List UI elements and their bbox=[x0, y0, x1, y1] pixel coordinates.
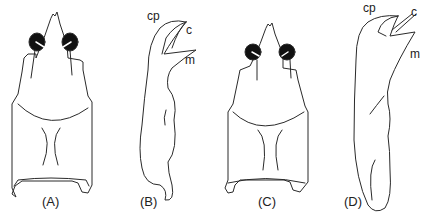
label-c-d: c bbox=[411, 6, 417, 18]
label-m-b: m bbox=[185, 54, 195, 66]
panel-label-a: (A) bbox=[42, 195, 59, 208]
label-c-b: c bbox=[186, 24, 192, 36]
label-cp-d: cp bbox=[363, 2, 376, 14]
appendage-b bbox=[140, 21, 196, 200]
panel-label-b: (B) bbox=[140, 195, 157, 208]
panel-label-c: (C) bbox=[258, 195, 276, 208]
panel-label-d: (D) bbox=[344, 195, 362, 208]
carapace-a bbox=[12, 12, 92, 197]
figure-drawing bbox=[0, 0, 427, 219]
carapace-c bbox=[225, 23, 308, 193]
label-cp-b: cp bbox=[147, 10, 160, 22]
appendage-d bbox=[354, 14, 416, 211]
label-m-d: m bbox=[410, 48, 420, 60]
